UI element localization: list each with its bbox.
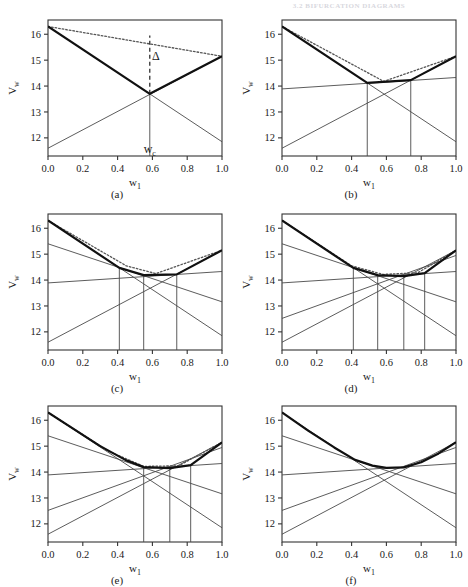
x-tick-label: 0.8	[415, 163, 428, 174]
svg-text:Vw: Vw	[240, 275, 255, 289]
x-tick-label: 0.6	[146, 549, 159, 560]
dotted-chord	[48, 412, 222, 466]
y-tick-label: 13	[31, 107, 42, 118]
dotted-chord	[282, 26, 456, 81]
svg-text:Vw: Vw	[6, 81, 21, 95]
x-tick-label: 0.6	[380, 163, 393, 174]
plot-content	[282, 26, 456, 156]
y-tick-label: 12	[31, 326, 42, 337]
x-tick-label: 0.8	[181, 357, 194, 368]
x-tick-label: 1.0	[215, 163, 228, 174]
y-tick-label: 13	[265, 301, 276, 312]
component-line	[282, 255, 456, 318]
component-line	[48, 447, 222, 510]
figure-grid: 12131415160.00.20.40.60.81.0Vww1Δwc (a) …	[0, 0, 468, 587]
x-tick-label: 0.6	[146, 163, 159, 174]
x-tick-label: 0.4	[345, 163, 359, 174]
x-tick-label: 0.6	[146, 357, 159, 368]
dotted-chord	[282, 220, 456, 274]
annotation-delta: Δ	[152, 49, 160, 63]
y-tick-label: 13	[265, 493, 276, 504]
x-tick-label: 0.2	[76, 549, 89, 560]
x-tick-label: 0.0	[275, 357, 288, 368]
plot-b: 12131415160.00.20.40.60.81.0Vww1	[234, 4, 468, 200]
x-tick-label: 1.0	[449, 357, 462, 368]
svg-text:Vw: Vw	[6, 467, 21, 481]
x-tick-label: 0.6	[380, 357, 393, 368]
lower-envelope	[48, 26, 222, 93]
y-tick-label: 14	[265, 275, 276, 286]
plot-content	[282, 412, 456, 534]
x-tick-label: 0.0	[41, 549, 54, 560]
plot-d: 12131415160.00.20.40.60.81.0Vww1	[234, 198, 468, 394]
y-tick-label: 16	[265, 415, 276, 426]
panel-d: 12131415160.00.20.40.60.81.0Vww1 (d)	[234, 198, 468, 394]
panel-caption-e: (e)	[0, 574, 234, 586]
x-tick-label: 0.2	[310, 549, 323, 560]
x-tick-label: 0.0	[41, 357, 54, 368]
svg-text:Vw: Vw	[240, 467, 255, 481]
plot-content	[282, 220, 456, 350]
y-tick-label: 14	[31, 275, 42, 286]
plot-frame	[48, 20, 222, 156]
y-tick-label: 15	[31, 55, 42, 66]
x-tick-label: 1.0	[449, 549, 462, 560]
panel-f: 12131415160.00.20.40.60.81.0Vww1 (f)	[234, 390, 468, 586]
y-tick-label: 12	[31, 518, 42, 529]
x-tick-label: 0.8	[181, 549, 194, 560]
panel-b: 12131415160.00.20.40.60.81.0Vww1 (b)	[234, 4, 468, 200]
x-tick-label: 0.8	[181, 163, 194, 174]
y-axis-label: Vw	[6, 275, 21, 289]
x-tick-label: 0.6	[380, 549, 393, 560]
y-tick-label: 15	[265, 55, 276, 66]
y-tick-label: 14	[31, 81, 42, 92]
y-tick-label: 12	[265, 518, 276, 529]
y-axis-label: Vw	[6, 467, 21, 481]
lower-envelope	[48, 412, 222, 468]
svg-text:Vw: Vw	[240, 81, 255, 95]
y-tick-label: 16	[31, 29, 42, 40]
x-tick-label: 0.8	[415, 357, 428, 368]
y-tick-label: 12	[265, 326, 276, 337]
panel-c: 12131415160.00.20.40.60.81.0Vww1 (c)	[0, 198, 234, 394]
plot-c: 12131415160.00.20.40.60.81.0Vww1	[0, 198, 234, 394]
y-tick-label: 14	[31, 467, 42, 478]
component-line	[282, 442, 456, 534]
y-tick-label: 16	[31, 415, 42, 426]
panel-caption-f: (f)	[234, 574, 468, 586]
plot-content	[48, 412, 222, 542]
y-tick-label: 16	[31, 223, 42, 234]
y-axis-label: Vw	[240, 81, 255, 95]
x-tick-label: 0.0	[275, 163, 288, 174]
lower-envelope	[282, 26, 456, 82]
plot-frame	[282, 214, 456, 350]
x-tick-label: 0.8	[415, 549, 428, 560]
x-tick-label: 1.0	[215, 549, 228, 560]
y-axis-label: Vw	[6, 81, 21, 95]
annotation-wc: wc	[144, 142, 157, 158]
plot-frame	[48, 214, 222, 350]
plot-content	[48, 220, 222, 350]
y-tick-label: 12	[31, 132, 42, 143]
x-tick-label: 1.0	[215, 357, 228, 368]
plot-e: 12131415160.00.20.40.60.81.0Vww1	[0, 390, 234, 586]
panel-a: 12131415160.00.20.40.60.81.0Vww1Δwc (a)	[0, 4, 234, 200]
y-tick-label: 14	[265, 81, 276, 92]
x-tick-label: 1.0	[449, 163, 462, 174]
y-tick-label: 15	[265, 441, 276, 452]
x-tick-label: 0.2	[310, 357, 323, 368]
x-tick-label: 0.4	[111, 163, 125, 174]
lower-envelope	[282, 220, 456, 276]
x-tick-label: 0.2	[76, 357, 89, 368]
y-tick-label: 14	[265, 467, 276, 478]
plot-frame	[48, 406, 222, 542]
dotted-chord	[48, 26, 222, 56]
y-tick-label: 15	[31, 249, 42, 260]
y-tick-label: 13	[31, 493, 42, 504]
plot-f: 12131415160.00.20.40.60.81.0Vww1	[234, 390, 468, 586]
x-tick-label: 0.0	[275, 549, 288, 560]
plot-content	[48, 26, 222, 156]
svg-text:Vw: Vw	[6, 275, 21, 289]
y-tick-label: 16	[265, 223, 276, 234]
x-tick-label: 0.4	[111, 357, 125, 368]
